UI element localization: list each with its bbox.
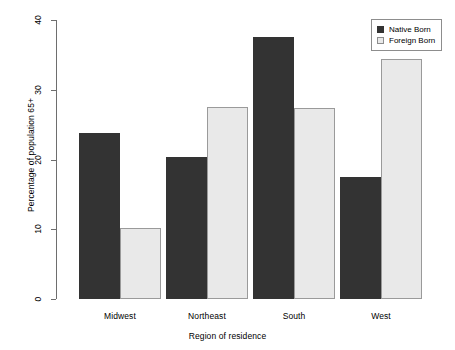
- plot-area: [57, 14, 455, 299]
- bar-group: [166, 14, 248, 299]
- legend: Native Born Foreign Born: [371, 19, 442, 51]
- bar-chart: Percentage of population 65+ 010203040 M…: [0, 0, 455, 350]
- y-axis-tick-label: 10: [33, 216, 43, 242]
- bar-south-foreign-born[interactable]: [294, 108, 335, 299]
- legend-swatch-foreign-born-icon: [377, 37, 384, 44]
- x-axis-tick-label-west: West: [336, 311, 426, 321]
- bar-northeast-foreign-born[interactable]: [207, 107, 248, 300]
- legend-item-native-born: Native Born: [377, 24, 435, 35]
- x-axis-title: Region of residence: [55, 331, 400, 341]
- x-axis-tick-label-south: South: [249, 311, 339, 321]
- bar-west-native-born[interactable]: [340, 177, 381, 299]
- y-axis-tick: [51, 20, 56, 21]
- bar-group: [340, 14, 422, 299]
- legend-label-native-born: Native Born: [389, 25, 431, 35]
- bar-northeast-native-born[interactable]: [166, 157, 207, 299]
- y-axis-tick-label: 20: [33, 147, 43, 173]
- legend-swatch-native-born-icon: [377, 26, 384, 33]
- legend-item-foreign-born: Foreign Born: [377, 35, 435, 46]
- y-axis-tick: [51, 160, 56, 161]
- y-axis-tick: [51, 299, 56, 300]
- bar-west-foreign-born[interactable]: [381, 59, 422, 299]
- bar-midwest-foreign-born[interactable]: [120, 228, 161, 299]
- y-axis-tick-label: 0: [33, 286, 43, 312]
- y-axis-tick: [51, 229, 56, 230]
- bar-group: [253, 14, 335, 299]
- y-axis-tick: [51, 90, 56, 91]
- y-axis-tick-label: 30: [33, 77, 43, 103]
- x-axis-tick-label-midwest: Midwest: [75, 311, 165, 321]
- x-axis-tick-label-northeast: Northeast: [162, 311, 252, 321]
- bar-south-native-born[interactable]: [253, 37, 294, 299]
- legend-label-foreign-born: Foreign Born: [389, 36, 435, 46]
- bar-midwest-native-born[interactable]: [79, 133, 120, 299]
- bar-group: [79, 14, 161, 299]
- y-axis-tick-label: 40: [33, 7, 43, 33]
